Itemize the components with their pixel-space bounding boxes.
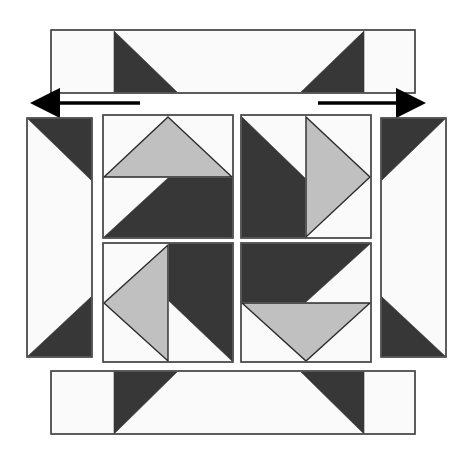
quilt-diagram-canvas — [0, 0, 466, 459]
quilt-diagram — [0, 0, 466, 459]
block-bottom-right — [241, 243, 371, 362]
left-sashing-strip — [27, 118, 92, 357]
block-top-left — [103, 115, 233, 238]
block-top-right — [241, 115, 371, 238]
top-sashing-strip — [51, 30, 415, 93]
block-bottom-left — [103, 243, 233, 362]
bottom-sashing-strip — [51, 371, 415, 434]
right-sashing-strip — [381, 118, 446, 357]
